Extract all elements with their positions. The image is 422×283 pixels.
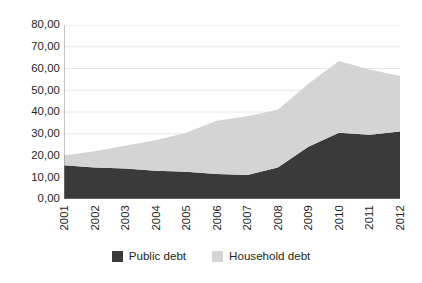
x-tick-label: 2012 — [395, 205, 406, 251]
x-tick-label: 2007 — [242, 205, 253, 251]
legend-swatch-public-debt — [112, 251, 123, 262]
x-tick-label: 2004 — [151, 205, 162, 251]
x-tick-label: 2003 — [120, 205, 131, 251]
y-tick-label: 40,00 — [2, 106, 60, 117]
x-tick-label: 2011 — [364, 205, 375, 251]
area-chart: 80,0070,0060,0050,0040,0030,0020,0010,00… — [0, 0, 422, 283]
x-tick-label: 2002 — [90, 205, 101, 251]
y-tick-label: 20,00 — [2, 150, 60, 161]
y-tick-label: 0,00 — [2, 193, 60, 204]
y-tick-label: 70,00 — [2, 41, 60, 52]
y-tick-label: 80,00 — [2, 19, 60, 30]
y-tick-label: 30,00 — [2, 128, 60, 139]
plot-svg — [64, 25, 400, 199]
x-tick-label: 2010 — [334, 205, 345, 251]
area-series-group — [64, 61, 400, 199]
x-tick-label: 2001 — [59, 205, 70, 251]
legend-item[interactable]: Household debt — [212, 250, 310, 262]
plot-area — [64, 25, 400, 199]
x-tick-label: 2009 — [303, 205, 314, 251]
x-axis: 2001200220032004200520062007200820092010… — [64, 199, 400, 255]
y-tick-label: 60,00 — [2, 63, 60, 74]
y-axis: 80,0070,0060,0050,0040,0030,0020,0010,00… — [0, 0, 60, 283]
x-tick-label: 2008 — [273, 205, 284, 251]
x-tick-label: 2005 — [181, 205, 192, 251]
chart-legend: Public debtHousehold debt — [0, 250, 422, 262]
legend-label: Public debt — [129, 250, 186, 262]
y-tick-label: 10,00 — [2, 172, 60, 183]
legend-label: Household debt — [229, 250, 310, 262]
x-tick-label: 2006 — [212, 205, 223, 251]
y-tick-label: 50,00 — [2, 85, 60, 96]
legend-item[interactable]: Public debt — [112, 250, 186, 262]
legend-swatch-household-debt — [212, 251, 223, 262]
